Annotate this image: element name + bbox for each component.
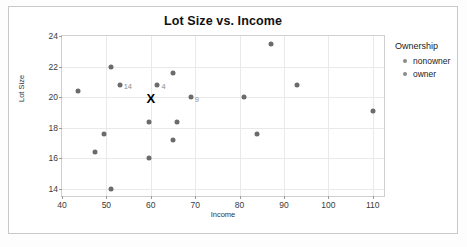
y-tick-mark <box>59 158 62 159</box>
data-point-label: 4 <box>161 82 165 91</box>
x-tick-mark <box>106 196 107 199</box>
x-tick-label: 80 <box>235 200 244 210</box>
data-point[interactable] <box>108 64 113 69</box>
x-axis-label: Income <box>61 210 385 219</box>
x-gridline <box>284 36 285 196</box>
legend-entries: nonownerowner <box>395 56 467 79</box>
x-tick-label: 50 <box>102 200 111 210</box>
legend-item-label: owner <box>413 69 436 79</box>
data-point[interactable] <box>175 119 180 124</box>
y-tick-mark <box>59 67 62 68</box>
data-point[interactable] <box>268 41 273 46</box>
y-tick-label: 22 <box>49 62 58 72</box>
y-axis-label: Lot Size <box>17 75 26 102</box>
chart-title: Lot Size vs. Income <box>61 14 385 28</box>
x-tick-mark <box>284 196 285 199</box>
y-gridline <box>62 128 384 129</box>
x-tick-label: 70 <box>190 200 199 210</box>
x-gridline <box>373 36 374 196</box>
data-point-label: 9 <box>195 94 199 103</box>
data-point[interactable] <box>108 186 113 191</box>
plot-area: 4050607080901001101416182022241449X <box>61 35 385 197</box>
data-point[interactable] <box>188 95 193 100</box>
data-point[interactable] <box>170 137 175 142</box>
y-tick-label: 20 <box>49 92 58 102</box>
data-point[interactable] <box>170 70 175 75</box>
y-tick-label: 24 <box>49 31 58 41</box>
y-tick-label: 18 <box>49 123 58 133</box>
data-point[interactable] <box>93 150 98 155</box>
y-gridline <box>62 97 384 98</box>
data-point[interactable] <box>146 156 151 161</box>
data-point[interactable] <box>255 131 260 136</box>
x-tick-mark <box>373 196 374 199</box>
y-tick-label: 16 <box>49 153 58 163</box>
data-point[interactable] <box>155 82 160 87</box>
y-tick-mark <box>59 189 62 190</box>
x-gridline <box>328 36 329 196</box>
legend-title: Ownership <box>395 41 467 51</box>
y-tick-mark <box>59 128 62 129</box>
data-point-label: 14 <box>124 82 132 91</box>
x-tick-label: 40 <box>57 200 66 210</box>
x-tick-mark <box>62 196 63 199</box>
x-tick-label: 110 <box>366 200 380 210</box>
data-point[interactable] <box>146 119 151 124</box>
data-point[interactable] <box>102 131 107 136</box>
x-gridline <box>195 36 196 196</box>
x-tick-mark <box>328 196 329 199</box>
chart-screenshot: Lot Size vs. Income Lot Size 40506070809… <box>0 0 467 247</box>
x-tick-label: 100 <box>321 200 335 210</box>
legend-item[interactable]: nonowner <box>403 56 467 66</box>
x-marker[interactable]: X <box>146 91 155 104</box>
y-tick-mark <box>59 97 62 98</box>
x-gridline <box>240 36 241 196</box>
x-tick-mark <box>195 196 196 199</box>
legend-marker-icon <box>403 59 407 63</box>
legend-item[interactable]: owner <box>403 69 467 79</box>
x-gridline <box>106 36 107 196</box>
y-tick-mark <box>59 36 62 37</box>
data-point[interactable] <box>241 95 246 100</box>
chart-frame: Lot Size vs. Income Lot Size 40506070809… <box>8 6 458 234</box>
x-gridline <box>151 36 152 196</box>
data-point[interactable] <box>75 89 80 94</box>
data-point[interactable] <box>117 82 122 87</box>
x-tick-mark <box>240 196 241 199</box>
data-point[interactable] <box>295 82 300 87</box>
data-point[interactable] <box>370 108 375 113</box>
x-tick-mark <box>151 196 152 199</box>
chart-legend: Ownership nonownerowner <box>395 41 467 82</box>
y-tick-label: 14 <box>49 184 58 194</box>
y-gridline <box>62 158 384 159</box>
x-tick-label: 90 <box>279 200 288 210</box>
x-tick-label: 60 <box>146 200 155 210</box>
legend-item-label: nonowner <box>413 56 450 66</box>
legend-marker-icon <box>403 72 407 76</box>
